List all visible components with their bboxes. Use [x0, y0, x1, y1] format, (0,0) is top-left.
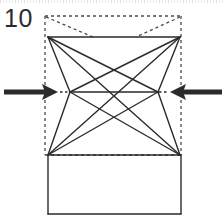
dashed-diagonal-left	[46, 17, 93, 37]
paper-lower-panel-fill	[48, 155, 181, 214]
origami-step-figure: 10	[0, 0, 224, 221]
dashed-top-diagonals	[46, 17, 180, 37]
step-number-label: 10	[4, 6, 33, 31]
dashed-diagonal-right	[136, 17, 180, 37]
fold-diagram-canvas	[0, 0, 224, 221]
